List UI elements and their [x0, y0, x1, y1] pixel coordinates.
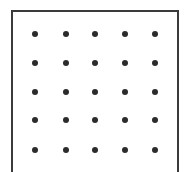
grid-dot: [92, 147, 98, 153]
grid-dot: [152, 60, 158, 66]
grid-dot: [92, 117, 98, 123]
grid-dot: [32, 117, 38, 123]
grid-dot: [122, 60, 128, 66]
grid-dot: [152, 147, 158, 153]
grid-dot: [63, 31, 69, 37]
grid-dot: [122, 147, 128, 153]
grid-dot: [63, 117, 69, 123]
grid-dot: [92, 60, 98, 66]
grid-dot: [122, 89, 128, 95]
grid-dot: [63, 147, 69, 153]
grid-dot: [152, 117, 158, 123]
grid-dot: [92, 89, 98, 95]
grid-dot: [63, 60, 69, 66]
grid-dot: [122, 117, 128, 123]
grid-dot: [63, 89, 69, 95]
grid-dot: [92, 31, 98, 37]
grid-dot: [32, 60, 38, 66]
grid-dot: [32, 89, 38, 95]
grid-dot: [152, 31, 158, 37]
grid-dot: [32, 31, 38, 37]
grid-dot: [32, 147, 38, 153]
grid-dot: [152, 89, 158, 95]
grid-dot: [122, 31, 128, 37]
